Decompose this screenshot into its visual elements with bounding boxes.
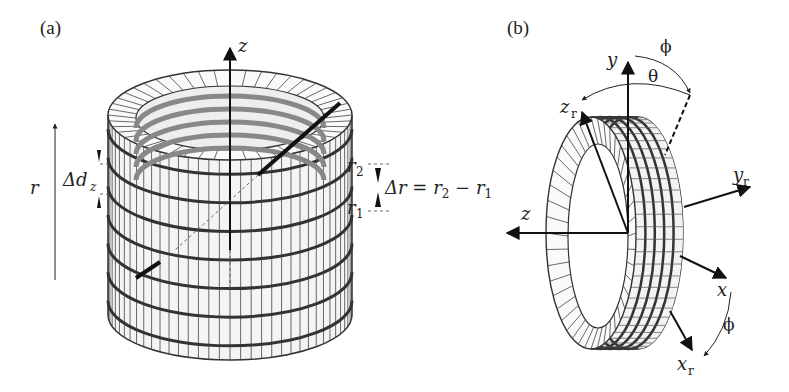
delta-dz-subscript: z (89, 180, 97, 194)
rotated-reference-line (665, 95, 690, 155)
xr-axis-label: x (677, 353, 687, 374)
yr-axis-subscript: r (743, 175, 749, 189)
figure: (a) z r (0, 0, 789, 392)
delta-r-annotation: r 2 r 1 Δr = r2 − r1 (347, 155, 492, 221)
r2-subscript: 2 (356, 165, 364, 179)
phi-label-bottom: ϕ (723, 314, 735, 334)
z-axis-label: z (237, 35, 248, 56)
zr-axis-label: z (559, 96, 570, 117)
panel-b: (b) y z z r y r x x r (507, 17, 750, 378)
phi-arc-top (635, 56, 690, 93)
theta-arc (582, 84, 690, 100)
delta-dz-annotation: Δd z (62, 150, 108, 208)
x-axis-arrow (680, 256, 726, 278)
y-axis-label: y (606, 49, 618, 70)
r-axis-label: r (30, 177, 40, 198)
panel-b-label: (b) (507, 17, 529, 39)
xr-axis-subscript: r (688, 364, 694, 378)
z-axis-label-b: z (520, 203, 531, 224)
panel-a-label: (a) (40, 17, 61, 39)
figure-canvas: (a) z r (0, 0, 789, 392)
r1-subscript: 1 (356, 207, 364, 221)
xr-axis-arrow (670, 311, 692, 350)
delta-r-equation: Δr = r2 − r1 (384, 177, 492, 201)
x-axis-label: x (717, 279, 727, 300)
theta-label: θ (648, 66, 658, 86)
panel-a: (a) z r (30, 17, 492, 360)
delta-dz-label: Δd (62, 169, 88, 190)
zr-axis-subscript: r (571, 107, 577, 121)
yr-axis-arrow (684, 187, 750, 207)
phi-label-top: ϕ (660, 36, 672, 56)
